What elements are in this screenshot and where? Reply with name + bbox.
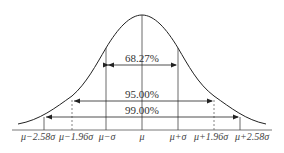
tick-minus-2-58-sigma: μ−2.58σ: [21, 131, 55, 142]
tick-minus-sigma: μ−σ: [99, 131, 116, 142]
tick-minus-1-96-sigma: μ−1.96σ: [59, 131, 93, 142]
tick-plus-sigma: μ+σ: [170, 131, 187, 142]
tick-plus-1-96-sigma: μ+1.96σ: [194, 131, 228, 142]
interval-95-label: 95.00%: [125, 88, 159, 100]
interval-99-label: 99.00%: [125, 104, 159, 116]
interval-68-label: 68.27%: [125, 52, 159, 64]
tick-plus-2-58-sigma: μ+2.58σ: [235, 131, 269, 142]
tick-mean: μ: [139, 131, 144, 142]
